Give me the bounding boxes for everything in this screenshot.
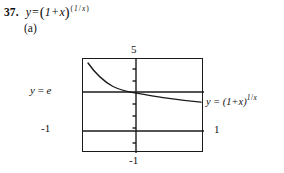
- problem-header: 37. y=(1+x)(1/x): [4, 3, 90, 20]
- axis-label-right-one: 1: [214, 124, 220, 135]
- equation-equals-sign: =: [31, 5, 40, 19]
- graph-plot-frame: [82, 58, 203, 152]
- axis-label-top-five: 5: [131, 44, 137, 55]
- function-curve: [88, 63, 201, 102]
- equation-open-paren: (: [40, 4, 45, 20]
- equation-exponent: (1/x): [70, 4, 90, 13]
- graph-plot-svg: [83, 59, 204, 153]
- y-e-equals-sign: =: [38, 84, 44, 96]
- exercise-figure-page: 37. y=(1+x)(1/x) (a) 5 -1 1 y = e -1 y =…: [0, 0, 284, 173]
- part-label-a: (a): [24, 22, 37, 34]
- equation-close-paren: ): [65, 4, 70, 20]
- axis-label-bottom-negative-one: -1: [129, 155, 138, 166]
- horizontal-line-label-negative-one: -1: [41, 123, 50, 134]
- curve-label-variable: y: [206, 96, 211, 107]
- curve-exponent-denominator: x: [254, 93, 257, 102]
- curve-label-equals-sign: =: [213, 96, 220, 107]
- curve-label-open: (1: [223, 96, 232, 107]
- curve-label-exponent: 1/x: [247, 93, 257, 102]
- exponent-close-paren: ): [85, 4, 90, 13]
- y-e-value: e: [47, 84, 52, 96]
- equation-term-x: x: [59, 5, 64, 19]
- problem-equation: y=(1+x)(1/x): [26, 3, 90, 20]
- horizontal-line-label-y-equals-e: y = e: [30, 85, 52, 96]
- problem-number: 37.: [4, 6, 19, 18]
- equation-term-one: 1: [45, 5, 51, 19]
- y-e-variable: y: [30, 84, 35, 96]
- curve-label-x-close: x): [239, 96, 247, 107]
- curve-label-function: y = (1+x)1/x: [206, 94, 257, 107]
- curve-label-plus-sign: +: [232, 96, 239, 107]
